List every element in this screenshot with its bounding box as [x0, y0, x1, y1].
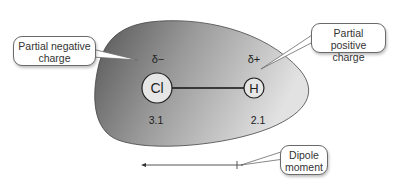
- callout-positive-line2: charge: [316, 51, 381, 63]
- callout-positive-line1: Partial positive: [316, 27, 381, 51]
- callout-dipole-line1: Dipole: [285, 149, 323, 161]
- atom-h: H: [244, 78, 264, 98]
- partial-charge-cl: δ−: [152, 53, 165, 65]
- electron-cloud: [95, 21, 309, 147]
- dipole-arrow: [141, 161, 243, 169]
- partial-charge-h: δ+: [248, 53, 261, 65]
- atom-cl-symbol: Cl: [150, 80, 163, 96]
- callout-dipole-line2: moment: [285, 161, 323, 173]
- callout-negative-line2: charge: [18, 52, 91, 64]
- callout-negative-line1: Partial negative: [18, 40, 91, 52]
- atom-cl: Cl: [142, 73, 172, 103]
- callout-dipole-moment: Dipole moment: [280, 145, 328, 175]
- electronegativity-cl: 3.1: [149, 114, 164, 126]
- callout-partial-positive-charge: Partial positive charge: [311, 23, 386, 53]
- callout-pointer-dipole: [241, 151, 284, 165]
- atom-h-symbol: H: [249, 81, 258, 96]
- electronegativity-h: 2.1: [251, 114, 266, 126]
- callout-partial-negative-charge: Partial negative charge: [13, 36, 96, 66]
